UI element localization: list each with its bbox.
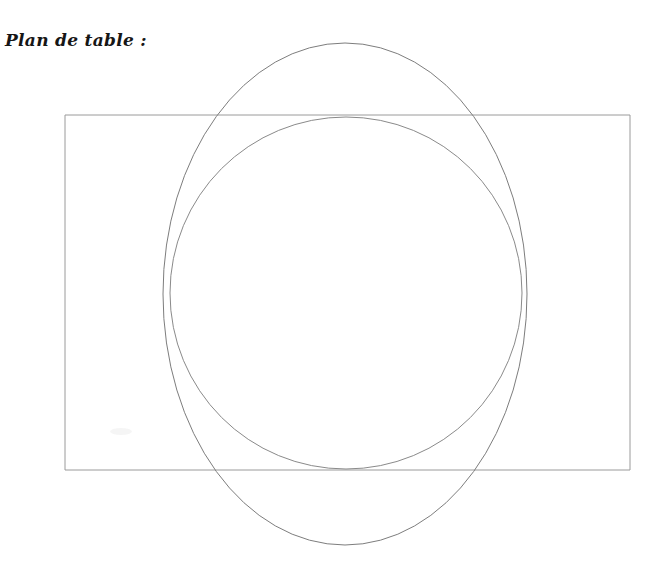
table-rectangle xyxy=(65,115,630,470)
paper-smudge xyxy=(110,428,132,435)
table-circle xyxy=(170,117,522,469)
seating-plan-diagram xyxy=(0,0,661,567)
seating-plan-page: Plan de table : xyxy=(0,0,661,567)
